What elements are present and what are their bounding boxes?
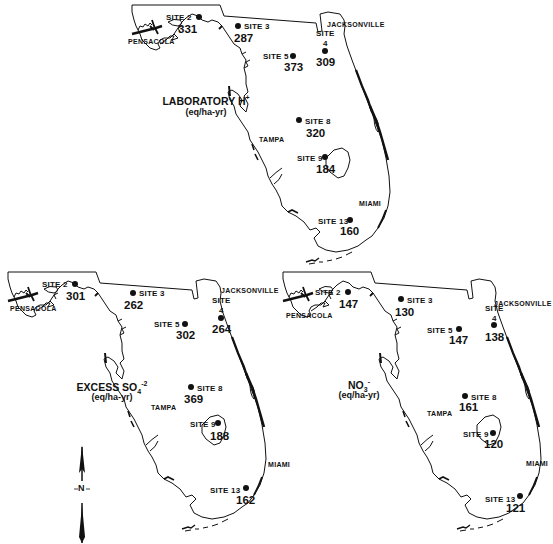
- site-2-label: SITE 2: [42, 281, 68, 289]
- site-4-marker: [491, 322, 497, 328]
- site-4-value: 309: [316, 57, 335, 69]
- site-2-value: 331: [178, 24, 197, 36]
- map-units: (eq/ha-yr): [319, 391, 399, 400]
- north-arrow-icon: [72, 445, 92, 544]
- map-title: LABORATORY H+: [156, 94, 256, 106]
- north-label: N: [78, 484, 85, 493]
- site-9-value: 188: [210, 431, 229, 443]
- site-4-marker: [322, 48, 328, 54]
- site-13-marker: [517, 493, 523, 499]
- site-2-marker: [72, 281, 78, 287]
- site-9-value: 120: [484, 439, 503, 451]
- map-units: (eq/ha-yr): [166, 108, 246, 117]
- site-5-value: 302: [176, 330, 195, 342]
- site-5-value: 373: [284, 62, 303, 74]
- map-title-superscript: -2: [141, 380, 147, 387]
- site-9-marker: [322, 154, 328, 160]
- site-3-marker: [235, 23, 241, 29]
- site-8-value: 369: [184, 394, 203, 406]
- map-title-text: NO: [348, 379, 364, 391]
- city-tampa: TAMPA: [259, 136, 284, 143]
- site-8-label: SITE 8: [197, 385, 223, 393]
- site-3-value: 262: [124, 300, 143, 312]
- site-13-value: 162: [236, 495, 255, 507]
- map-title-text: EXCESS SO: [77, 381, 138, 393]
- site-13-marker: [347, 217, 353, 223]
- site-5-marker: [456, 326, 462, 332]
- map-title-superscript: +: [245, 94, 249, 101]
- site-3-label: SITE 3: [407, 297, 433, 305]
- site-3-marker: [398, 296, 404, 302]
- site-8-marker: [296, 117, 302, 123]
- site-4-value: 264: [212, 324, 231, 336]
- map-no3: SITE 2 147 SITE 3 130 SITE 4 138 SITE 5 …: [281, 267, 553, 537]
- site-5-label: SITE 5: [154, 321, 180, 329]
- site-3-value: 130: [395, 307, 414, 319]
- site-13-value: 160: [340, 226, 359, 238]
- site-2-value: 147: [339, 299, 358, 311]
- site-13-marker: [243, 485, 249, 491]
- map-excess-so4: SITE 2 301 SITE 3 262 SITE 4 264 SITE 5 …: [6, 267, 286, 537]
- site-3-label: SITE 3: [139, 290, 165, 298]
- city-miami: MIAMI: [359, 200, 381, 207]
- city-pensacola: PENSACOLA: [10, 305, 57, 312]
- site-8-label: SITE 8: [305, 118, 331, 126]
- site-8-value: 320: [306, 128, 325, 140]
- map-title-text: LABORATORY H: [162, 95, 245, 107]
- city-jacksonville: JACKSONVILLE: [494, 300, 552, 307]
- site-8-value: 161: [459, 402, 478, 414]
- site-4-label: SITE: [316, 30, 335, 38]
- site-9-value: 184: [316, 164, 335, 176]
- city-jacksonville: JACKSONVILLE: [221, 287, 279, 294]
- site-9-label: SITE 9: [297, 155, 323, 163]
- site-5-value: 147: [449, 335, 468, 347]
- site-3-value: 287: [234, 33, 253, 45]
- city-miami: MIAMI: [526, 460, 548, 467]
- site-3-label: SITE 3: [244, 23, 270, 31]
- city-jacksonville: JACKSONVILLE: [327, 21, 385, 28]
- site-8-marker: [188, 384, 194, 390]
- site-5-marker: [290, 53, 296, 59]
- site-9-label: SITE 9: [190, 421, 216, 429]
- city-pensacola: PENSACOLA: [286, 312, 333, 319]
- city-tampa: TAMPA: [427, 410, 452, 417]
- site-2-label: SITE 2: [315, 289, 341, 297]
- site-5-label: SITE 5: [263, 53, 289, 61]
- site-4-label-number: 4: [323, 40, 328, 48]
- site-5-marker: [182, 321, 188, 327]
- city-pensacola: PENSACOLA: [128, 38, 175, 45]
- site-4-marker: [218, 315, 224, 321]
- city-tampa: TAMPA: [151, 404, 176, 411]
- site-2-marker: [345, 289, 351, 295]
- site-2-marker: [196, 14, 202, 20]
- site-4-label: SITE: [212, 297, 231, 305]
- north-arrow: N: [72, 445, 92, 544]
- map-units: (eq/ha-yr): [72, 393, 152, 402]
- map-laboratory-h: SITE 2 331 SITE 3 287 SITE 4 309 SITE 5 …: [130, 0, 410, 270]
- site-4-label-number: 4: [219, 307, 224, 315]
- map-title-superscript: -: [368, 378, 370, 385]
- site-4-value: 138: [485, 332, 504, 344]
- site-9-marker: [490, 430, 496, 436]
- site-2-value: 301: [66, 291, 85, 303]
- site-9-marker: [215, 420, 221, 426]
- site-3-marker: [130, 290, 136, 296]
- site-2-label: SITE 2: [166, 14, 192, 22]
- site-8-marker: [462, 393, 468, 399]
- site-13-value: 121: [506, 503, 525, 515]
